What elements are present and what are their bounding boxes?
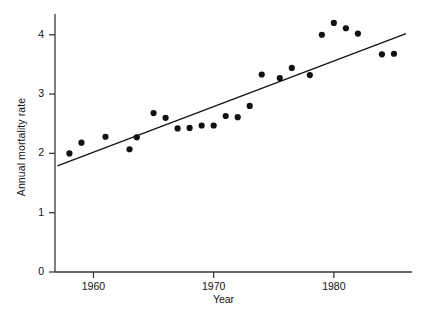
plot-canvas xyxy=(0,0,421,318)
trend-line xyxy=(57,34,406,166)
x-axis-title: Year xyxy=(0,293,421,305)
x-tick-label: 1980 xyxy=(312,280,356,292)
scatter-chart-figure: 01234 196019701980 Annual mortality rate… xyxy=(0,0,421,318)
data-points xyxy=(66,20,397,157)
x-axis-ticks xyxy=(93,272,333,278)
y-tick-label: 0 xyxy=(22,265,44,277)
y-axis-title: Annual mortality rate xyxy=(15,47,27,247)
y-tick-label: 4 xyxy=(22,28,44,40)
x-axis-title-text: Year xyxy=(213,293,234,305)
x-tick-label: 1970 xyxy=(192,280,236,292)
axis-lines xyxy=(55,14,412,272)
y-axis-ticks xyxy=(49,35,55,272)
x-tick-label: 1960 xyxy=(71,280,115,292)
